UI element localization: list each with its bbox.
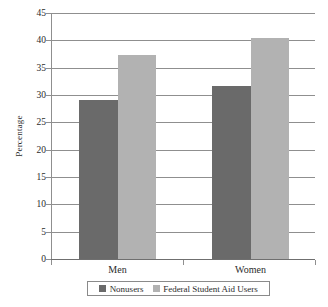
y-axis-tick-label: 0 bbox=[6, 254, 46, 264]
legend-label: Nonusers bbox=[110, 284, 144, 294]
legend-label: Federal Student Aid Users bbox=[163, 284, 258, 294]
legend-entry[interactable]: Nonusers bbox=[99, 284, 144, 294]
x-axis-group-label: Men bbox=[73, 263, 163, 276]
y-axis-tick-label: 20 bbox=[6, 145, 46, 155]
legend-entry[interactable]: Federal Student Aid Users bbox=[153, 284, 258, 294]
y-axis-tick-label: 25 bbox=[6, 117, 46, 127]
y-axis-tick-label: 35 bbox=[6, 63, 46, 73]
bar-chart: Percentage 051015202530354045 MenWomen N… bbox=[0, 0, 328, 307]
bar bbox=[79, 100, 118, 259]
legend: NonusersFederal Student Aid Users bbox=[87, 281, 270, 296]
bar bbox=[251, 38, 290, 259]
y-axis-title: Percentage bbox=[12, 13, 26, 259]
y-axis-tick-label: 5 bbox=[6, 227, 46, 237]
plot-area bbox=[51, 13, 315, 259]
y-axis-tick-label: 30 bbox=[6, 90, 46, 100]
x-axis-tick-mark bbox=[183, 260, 184, 265]
bar bbox=[212, 86, 251, 259]
gridline bbox=[51, 13, 315, 14]
y-axis-tick-label: 15 bbox=[6, 172, 46, 182]
x-axis-group-label: Women bbox=[206, 263, 296, 276]
y-axis-tick-label: 40 bbox=[6, 35, 46, 45]
y-axis-tick-label: 10 bbox=[6, 199, 46, 209]
legend-swatch-icon bbox=[99, 285, 106, 292]
legend-swatch-icon bbox=[153, 285, 160, 292]
x-axis-tick-mark bbox=[315, 260, 316, 265]
bar bbox=[118, 55, 157, 259]
x-axis-tick-mark bbox=[51, 260, 52, 265]
y-axis-tick-label: 45 bbox=[6, 8, 46, 18]
